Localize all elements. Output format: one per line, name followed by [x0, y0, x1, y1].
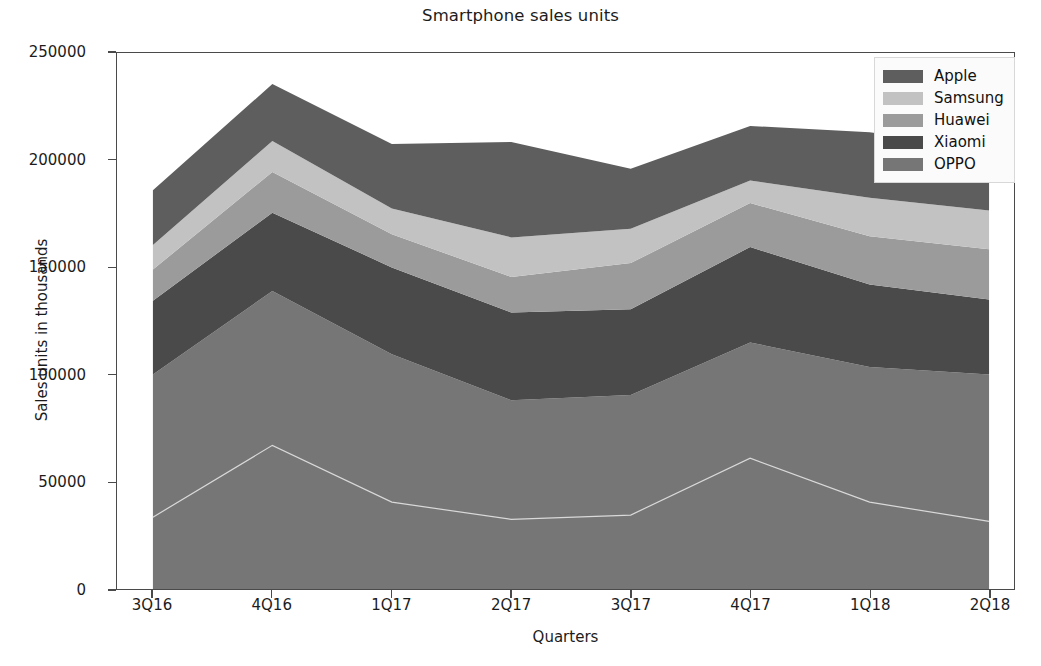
x-tick-label: 4Q17 — [730, 596, 770, 614]
legend-swatch-icon — [883, 136, 923, 149]
legend-item-xiaomi[interactable]: Xiaomi — [883, 131, 1004, 153]
legend-item-oppo[interactable]: OPPO — [883, 153, 1004, 175]
y-tick-label: 150000 — [0, 258, 86, 276]
y-tick-mark — [108, 589, 116, 590]
legend-swatch-icon — [883, 70, 923, 83]
x-tick-label: 2Q17 — [491, 596, 531, 614]
y-tick-label: 100000 — [0, 366, 86, 384]
legend-swatch-icon — [883, 114, 923, 127]
x-axis-title: Quarters — [116, 628, 1015, 646]
y-tick-label: 250000 — [0, 43, 86, 61]
legend-item-label: Xiaomi — [934, 135, 986, 150]
x-tick-label: 3Q16 — [132, 596, 172, 614]
legend-item-samsung[interactable]: Samsung — [883, 87, 1004, 109]
legend-item-label: Apple — [934, 69, 977, 84]
chart-legend[interactable]: AppleSamsungHuaweiXiaomiOPPO — [874, 57, 1015, 183]
y-axis-title-wrap: Sales units in thousands — [18, 52, 48, 590]
chart-page: Smartphone sales units Sales units in th… — [0, 0, 1041, 666]
x-tick-label: 1Q17 — [371, 596, 411, 614]
y-tick-mark — [108, 159, 116, 160]
y-tick-label: 0 — [0, 581, 86, 599]
y-tick-label: 200000 — [0, 151, 86, 169]
legend-item-label: Huawei — [934, 113, 990, 128]
legend-swatch-icon — [883, 158, 923, 171]
x-tick-label: 3Q17 — [611, 596, 651, 614]
legend-item-label: OPPO — [934, 157, 976, 172]
y-tick-mark — [108, 267, 116, 268]
x-tick-label: 1Q18 — [850, 596, 890, 614]
legend-item-huawei[interactable]: Huawei — [883, 109, 1004, 131]
y-tick-mark — [108, 482, 116, 483]
legend-swatch-icon — [883, 92, 923, 105]
legend-item-label: Samsung — [934, 91, 1004, 106]
x-tick-label: 2Q18 — [970, 596, 1010, 614]
y-tick-mark — [108, 374, 116, 375]
legend-item-apple[interactable]: Apple — [883, 65, 1004, 87]
x-tick-label: 4Q16 — [251, 596, 291, 614]
y-tick-mark — [108, 51, 116, 52]
chart-title: Smartphone sales units — [0, 6, 1041, 25]
y-tick-label: 50000 — [0, 473, 86, 491]
